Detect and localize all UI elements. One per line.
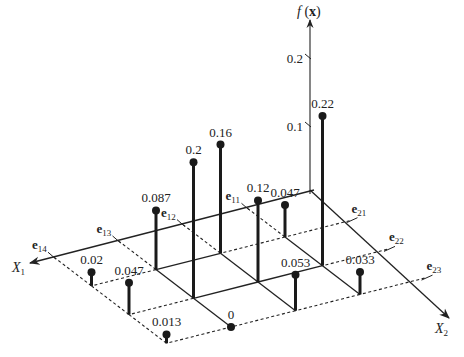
grid-line <box>194 282 259 298</box>
stem-value-label: 0.033 <box>345 252 374 267</box>
labels: f (x)X1X2e11e12e13e14e21e22e23 <box>11 4 448 338</box>
grid-line <box>231 311 296 327</box>
stem-marker <box>125 279 133 287</box>
x2-point-label-e23: e23 <box>427 258 442 275</box>
stem-marker <box>88 268 96 276</box>
x2-point-label-e22: e22 <box>389 229 404 246</box>
stem-value-label: 0.047 <box>114 263 144 278</box>
x1-point-label-e11: e11 <box>226 188 240 205</box>
x2-tick <box>384 246 395 251</box>
x2-tick <box>347 218 358 223</box>
stem-value-label: 0.02 <box>80 252 103 267</box>
stem-e13-e22: 0.2 <box>185 142 201 298</box>
grid-line <box>296 294 361 310</box>
stem-marker <box>190 158 198 166</box>
stem-marker <box>163 330 171 338</box>
tick-label: 0.1 <box>287 119 303 134</box>
stem-e11-e22: 0.22 <box>311 96 334 266</box>
stem-e11-e23: 0.033 <box>345 252 374 294</box>
grid-line <box>92 286 130 315</box>
grid-line <box>285 221 350 237</box>
stem-value-label: 0.16 <box>209 125 232 140</box>
stem-value-label: 0.013 <box>152 314 181 329</box>
stem-marker <box>152 206 160 214</box>
grid-line <box>221 253 259 282</box>
grid-line <box>323 266 361 295</box>
grid-line <box>156 253 221 269</box>
stem-plot-3d: 0.10.2 0.0470.220.0330.160.120.0530.0870… <box>0 0 464 357</box>
stem-marker <box>217 141 225 149</box>
stem-e13-e21: 0.087 <box>141 190 171 269</box>
stem-e13-e23: 0 <box>227 307 235 331</box>
grid-line <box>194 298 232 327</box>
stem-marker <box>227 323 235 331</box>
x1-point-label-e14: e14 <box>32 237 47 254</box>
stem-value-label: 0.053 <box>281 255 310 270</box>
tick-label: 0.2 <box>287 51 303 66</box>
stem-value-label: 0.12 <box>247 180 270 195</box>
stem-value-label: 0 <box>228 307 235 322</box>
grid-line <box>156 270 194 299</box>
stem-marker <box>319 112 327 120</box>
x2-point-label-e21: e21 <box>352 201 367 218</box>
stem-value-label: 0.047 <box>270 185 300 200</box>
x1-axis-label: X1 <box>11 260 25 277</box>
stem-value-label: 0.22 <box>311 96 334 111</box>
stem-marker <box>281 201 289 209</box>
grid-line <box>248 208 286 237</box>
stem-e14-e23: 0.013 <box>152 314 181 343</box>
stem-value-label: 0.087 <box>141 190 171 205</box>
stem-value-label: 0.2 <box>185 142 201 157</box>
x2-axis <box>310 190 449 318</box>
x2-tick <box>422 275 433 280</box>
stem-e12-e22: 0.12 <box>247 180 270 282</box>
x2-axis-label: X2 <box>434 321 448 338</box>
grid-line <box>183 225 221 254</box>
stem-e14-e21: 0.02 <box>80 252 103 286</box>
stems: 0.0470.220.0330.160.120.0530.0870.200.02… <box>80 96 375 343</box>
stem-marker <box>292 271 300 279</box>
x1-point-label-e12: e12 <box>161 205 176 222</box>
stem-marker <box>356 268 364 276</box>
grid-line <box>221 237 286 253</box>
x1-point-label-e13: e13 <box>97 221 112 238</box>
grid-line <box>258 282 296 311</box>
stem-marker <box>254 196 262 204</box>
f-axis-label: f (x) <box>297 4 321 20</box>
grid-line <box>129 298 194 314</box>
